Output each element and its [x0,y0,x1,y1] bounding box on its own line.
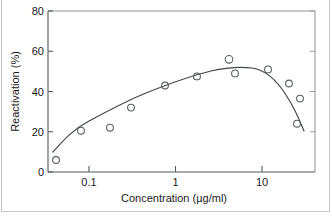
y-axis-title: Reactivation (%) [9,51,21,132]
y-tick-label-0: 0 [38,166,44,178]
x-tick-label-1: 1 [172,176,178,188]
data-point [78,127,85,134]
fitted-curve [53,67,304,152]
y-tick-label-40: 40 [32,86,44,98]
data-point [53,157,60,164]
x-tick-label-10: 10 [256,176,268,188]
plot-frame [48,11,315,172]
y-tick-label-20: 20 [32,126,44,138]
data-points [53,56,304,164]
data-point [128,104,135,111]
data-point [107,124,114,131]
data-point [286,80,293,87]
y-axis-ticks [48,11,53,172]
data-point [297,95,304,102]
data-point [194,73,201,80]
data-point [294,120,301,127]
x-tick-labels: 0.1 1 10 [81,176,268,188]
right-axis-ticks [310,11,315,132]
y-tick-label-80: 80 [32,5,44,17]
data-point [225,56,233,64]
x-tick-label-0point1: 0.1 [81,176,96,188]
x-axis-ticks [89,166,262,172]
figure-container: 0 20 40 60 80 0.1 1 10 [0,0,332,218]
data-point [232,70,239,77]
y-tick-label-60: 60 [32,45,44,57]
data-point [265,66,272,73]
x-axis-title: Concentration (µg/ml) [121,192,227,204]
reactivation-vs-concentration-chart: 0 20 40 60 80 0.1 1 10 [0,0,332,218]
y-tick-labels: 0 20 40 60 80 [32,5,44,178]
